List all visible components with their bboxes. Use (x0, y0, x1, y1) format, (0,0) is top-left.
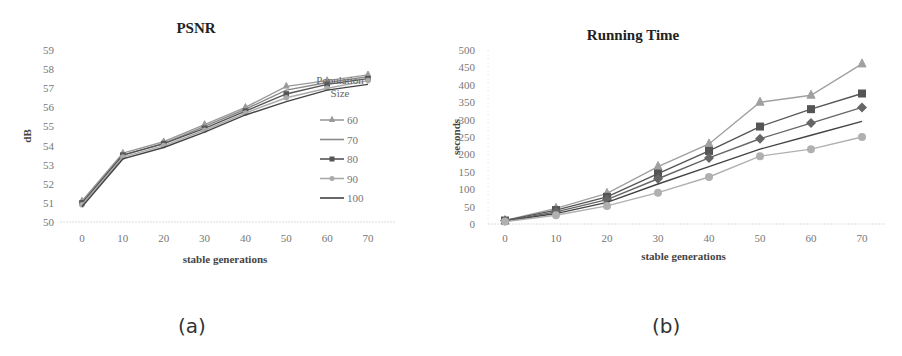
series-line (82, 79, 368, 203)
y-tick-label: 58 (43, 63, 55, 75)
y-tick-label: 350 (459, 96, 476, 108)
y-tick-label: 53 (43, 159, 55, 171)
triangle-marker (365, 71, 371, 77)
x-tick-label: 70 (857, 232, 869, 244)
legend-item: 70 (320, 134, 359, 146)
series-100 (501, 59, 866, 224)
legend-item: 80 (320, 153, 359, 165)
series-line (505, 64, 862, 221)
series-60 (501, 133, 866, 226)
legend-label: 90 (347, 173, 359, 185)
triangle-marker (858, 59, 866, 67)
circle-marker (501, 218, 509, 226)
x-tick-label: 0 (79, 232, 85, 244)
y-tick-label: 52 (43, 178, 54, 190)
legend-item: 60 (320, 114, 359, 126)
triangle-marker (283, 83, 289, 89)
running-time-chart-panel: Running Time0501001502002503003504004505… (450, 0, 902, 300)
y-tick-label: 450 (459, 61, 476, 73)
square-marker (756, 123, 764, 131)
caption-a: (a) (178, 314, 206, 338)
legend-label: 70 (347, 134, 359, 146)
x-tick-label: 60 (322, 232, 334, 244)
x-tick-label: 0 (502, 232, 508, 244)
circle-marker (552, 211, 560, 219)
x-tick-label: 50 (281, 232, 293, 244)
x-tick-label: 20 (602, 232, 614, 244)
series-100 (82, 84, 368, 206)
legend-label: 60 (347, 114, 359, 126)
y-tick-label: 0 (470, 218, 476, 230)
x-tick-label: 40 (240, 232, 252, 244)
x-tick-label: 20 (158, 232, 170, 244)
x-tick-label: 30 (199, 232, 211, 244)
y-axis-label: dB (21, 129, 33, 143)
running-time-chart: Running Time0501001502002503003504004505… (450, 0, 902, 300)
psnr-chart-panel: PSNR50515253545556575859010203040506070s… (0, 0, 460, 300)
series-line (82, 84, 368, 206)
legend-item: 100 (320, 192, 364, 204)
x-tick-label: 50 (755, 232, 767, 244)
y-tick-label: 51 (43, 197, 54, 209)
legend-title: Population (316, 74, 364, 86)
chart-title: PSNR (176, 20, 215, 36)
x-tick-label: 60 (806, 232, 818, 244)
x-tick-label: 10 (551, 232, 563, 244)
series-line (82, 75, 368, 201)
y-tick-label: 100 (459, 183, 476, 195)
circle-marker (705, 173, 713, 181)
psnr-chart: PSNR50515253545556575859010203040506070s… (0, 0, 460, 300)
diamond-marker (857, 102, 867, 112)
y-tick-label: 500 (459, 44, 476, 56)
diamond-marker (755, 134, 765, 144)
x-tick-label: 10 (117, 232, 129, 244)
series-90 (79, 78, 371, 208)
circle-marker (756, 152, 764, 160)
series-80 (79, 76, 371, 206)
circle-marker (330, 176, 335, 181)
series-line (82, 81, 368, 205)
legend-title: Size (331, 87, 350, 99)
x-tick-label: 30 (653, 232, 665, 244)
legend-label: 80 (347, 153, 359, 165)
circle-marker (365, 78, 371, 84)
circle-marker (283, 95, 289, 101)
y-tick-label: 55 (43, 120, 55, 132)
triangle-marker (330, 117, 335, 122)
diamond-marker (806, 118, 816, 128)
y-tick-label: 54 (43, 140, 55, 152)
y-tick-label: 150 (459, 166, 476, 178)
legend: PopulationSize60708090100 (316, 74, 364, 204)
x-tick-label: 70 (363, 232, 375, 244)
triangle-marker (705, 139, 713, 147)
y-tick-label: 56 (43, 101, 55, 113)
x-axis-label: stable generations (183, 253, 268, 265)
y-axis-label: seconds (450, 118, 462, 155)
y-tick-label: 50 (43, 216, 55, 228)
circle-marker (858, 133, 866, 141)
circle-marker (807, 145, 815, 153)
square-marker (807, 105, 815, 113)
circle-marker (654, 189, 662, 197)
legend-item: 90 (320, 173, 359, 185)
y-tick-label: 57 (43, 82, 55, 94)
chart-title: Running Time (587, 27, 680, 43)
circle-marker (603, 202, 611, 210)
y-tick-label: 400 (459, 79, 476, 91)
square-marker (858, 90, 866, 98)
caption-b: (b) (652, 314, 680, 338)
square-marker (330, 157, 335, 162)
x-axis-label: stable generations (641, 250, 726, 262)
y-tick-label: 59 (43, 44, 55, 56)
y-tick-label: 50 (464, 201, 476, 213)
x-tick-label: 40 (704, 232, 716, 244)
legend-label: 100 (347, 192, 364, 204)
